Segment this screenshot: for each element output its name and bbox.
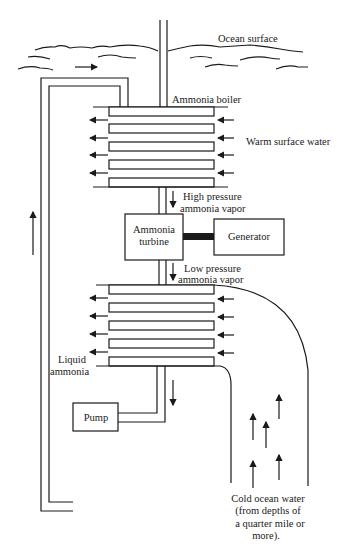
ammonia-boiler (93, 107, 228, 187)
otec-diagram: Ocean surface Ammonia boiler Warm surfac… (0, 0, 351, 557)
cold-water-label-3: a quarter mile or (235, 518, 305, 529)
generator-label: Generator (228, 231, 270, 242)
liquid-ammonia-label-1: Liquid (58, 354, 87, 365)
cold-water-label-4: more). (252, 530, 280, 542)
turbine-shaft (183, 233, 214, 240)
turbine-label-1: Ammonia (133, 224, 175, 235)
low-pressure-label-2: ammonia vapor (178, 274, 244, 285)
warm-surface-water-label: Warm surface water (246, 136, 331, 147)
pump-label: Pump (84, 412, 109, 423)
ocean-surface-label: Ocean surface (218, 33, 278, 44)
ammonia-boiler-label: Ammonia boiler (172, 94, 242, 105)
liquid-ammonia-label-2: ammonia (50, 366, 89, 377)
low-pressure-label-1: Low pressure (184, 263, 241, 274)
cold-intake-inner (214, 366, 231, 483)
condenser (96, 285, 214, 366)
cold-intake-outer (214, 285, 308, 486)
high-pressure-label-1: High pressure (183, 191, 242, 202)
cold-water-label-1: Cold ocean water (231, 493, 305, 504)
high-pressure-label-2: ammonia vapor (180, 203, 246, 214)
cold-water-label-2: (from depths of (235, 505, 301, 517)
ocean-waves (18, 45, 308, 70)
cold-upflow-arrows (253, 395, 279, 488)
liquid-pipe-inner (118, 366, 157, 413)
turbine-label-2: turbine (139, 236, 169, 247)
